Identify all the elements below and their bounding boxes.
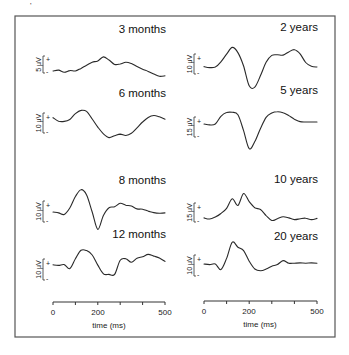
time-axis-right: 0 200 500 time (ms) bbox=[202, 301, 324, 329]
panel-5-years: 5 years+-15 μV bbox=[186, 84, 318, 149]
panel-20-years: 20 years+-10 μV bbox=[186, 230, 318, 278]
waveform-trace bbox=[53, 110, 165, 137]
scale-bar bbox=[194, 255, 196, 276]
panel-label: 8 months bbox=[119, 174, 167, 186]
tick-label-500: 500 bbox=[158, 308, 172, 317]
polarity-minus: - bbox=[46, 128, 49, 135]
scale-bar bbox=[43, 113, 45, 133]
scale-bar bbox=[43, 56, 45, 73]
scale-bar bbox=[194, 117, 196, 137]
scale-label: 10 μV bbox=[35, 113, 43, 132]
tick-label-200: 200 bbox=[242, 307, 256, 316]
erp-waveform-figure: ' 3 months+-5 μV6 months+-10 μV8 months+… bbox=[0, 0, 349, 355]
polarity-minus: - bbox=[46, 68, 49, 75]
panel-label: 5 years bbox=[280, 84, 318, 96]
scale-label: 15 μV bbox=[186, 203, 194, 222]
scale-label: 10 μV bbox=[186, 54, 194, 73]
x-axis-label: time (ms) bbox=[92, 321, 126, 330]
panel-3-months: 3 months+-5 μV bbox=[35, 23, 166, 76]
polarity-plus: + bbox=[197, 256, 201, 263]
panel-8-months: 8 months+-10 μV bbox=[35, 174, 166, 229]
scale-bar bbox=[43, 259, 45, 280]
panel-label: 2 years bbox=[280, 21, 318, 33]
panel-label: 3 months bbox=[119, 23, 167, 35]
waveform-trace bbox=[204, 112, 317, 149]
scale-bar bbox=[194, 54, 196, 74]
waveform-trace bbox=[204, 47, 317, 88]
panel-2-years: 2 years+-10 μV bbox=[186, 21, 318, 88]
panel-10-years: 10 years+-15 μV bbox=[186, 173, 318, 224]
polarity-minus: - bbox=[46, 217, 49, 224]
polarity-minus: - bbox=[197, 132, 200, 139]
polarity-plus: + bbox=[46, 56, 50, 63]
waveform-trace bbox=[204, 193, 317, 220]
scale-bar bbox=[43, 201, 45, 222]
waveform-trace bbox=[53, 250, 165, 276]
scale-label: 10 μV bbox=[35, 260, 43, 279]
scale-label: 15 μV bbox=[186, 117, 194, 136]
time-axis-left: 0 200 500 time (ms) bbox=[51, 302, 172, 330]
scale-label: 5 μV bbox=[35, 57, 43, 72]
polarity-minus: - bbox=[197, 217, 200, 224]
tick-label-200: 200 bbox=[91, 308, 105, 317]
panel-6-months: 6 months+-10 μV bbox=[35, 87, 166, 138]
panel-label: 10 years bbox=[274, 173, 318, 185]
scale-bar bbox=[194, 203, 196, 222]
panel-label: 12 months bbox=[112, 228, 166, 240]
scale-label: 10 μV bbox=[186, 256, 194, 275]
polarity-plus: + bbox=[197, 118, 201, 125]
corner-mark: ' bbox=[30, 1, 32, 10]
polarity-minus: - bbox=[46, 275, 49, 282]
waveform-trace bbox=[204, 242, 317, 271]
polarity-plus: + bbox=[46, 114, 50, 121]
polarity-minus: - bbox=[197, 271, 200, 278]
tick-label-0: 0 bbox=[51, 308, 56, 317]
x-axis-label: time (ms) bbox=[243, 320, 277, 329]
scale-label: 10 μV bbox=[35, 202, 43, 221]
panels-group: 3 months+-5 μV6 months+-10 μV8 months+-1… bbox=[35, 21, 318, 282]
panel-label: 6 months bbox=[119, 87, 167, 99]
polarity-minus: - bbox=[197, 69, 200, 76]
polarity-plus: + bbox=[197, 55, 201, 62]
waveform-trace bbox=[53, 190, 165, 230]
panel-label: 20 years bbox=[274, 230, 318, 242]
panel-12-months: 12 months+-10 μV bbox=[35, 228, 166, 282]
polarity-plus: + bbox=[46, 260, 50, 267]
polarity-plus: + bbox=[46, 202, 50, 209]
tick-label-0: 0 bbox=[202, 307, 207, 316]
waveform-trace bbox=[53, 57, 165, 76]
polarity-plus: + bbox=[197, 204, 201, 211]
tick-label-500: 500 bbox=[310, 307, 324, 316]
